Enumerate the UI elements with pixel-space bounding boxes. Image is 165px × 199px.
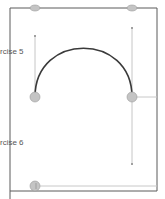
exercise-frame [10, 8, 157, 199]
arc-start-anchor[interactable] [30, 92, 40, 102]
arc-end-anchor[interactable] [127, 92, 137, 102]
artboard-canvas[interactable]: rcise 5 rcise 6 [0, 0, 165, 199]
right-handle-top-point[interactable] [131, 27, 133, 29]
pen-exercise-artwork [0, 0, 165, 199]
exercise-5-label: rcise 5 [0, 47, 24, 56]
left-handle-point[interactable] [34, 35, 36, 37]
bezier-arc-path[interactable] [35, 48, 132, 97]
exercise-6-label: rcise 6 [0, 138, 24, 147]
right-handle-bottom-point[interactable] [131, 163, 133, 165]
top-right-anchor[interactable] [127, 5, 137, 11]
top-left-anchor[interactable] [30, 5, 40, 11]
bottom-anchor[interactable] [30, 181, 40, 191]
